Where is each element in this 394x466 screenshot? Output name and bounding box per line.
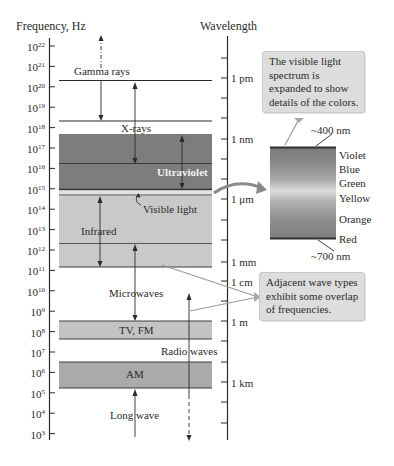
frequency-axis	[49, 38, 55, 440]
wavelength-axis	[221, 36, 228, 440]
spectrum-400nm-label: ~400 nm	[311, 124, 350, 136]
visible-light-band	[59, 191, 212, 195]
freq-tick-6: 106	[7, 365, 45, 379]
freq-tick-19: 1019	[7, 100, 45, 114]
microwaves-label: Microwaves	[109, 287, 163, 299]
infrared-label: Infrared	[81, 225, 116, 237]
overlap-pointers	[162, 265, 258, 311]
color-label-green: Green	[339, 177, 366, 189]
callout-line: The visible light	[269, 55, 358, 69]
wavelength-label-um: 1 μm	[231, 193, 254, 205]
freq-tick-4: 104	[7, 406, 45, 420]
callout-line: details of the colors.	[269, 96, 358, 110]
visible-light-label: Visible light	[143, 203, 197, 215]
freq-tick-12: 1012	[7, 243, 45, 257]
callout-line: of frequencies.	[266, 303, 358, 317]
freq-tick-11: 1011	[7, 263, 45, 277]
wavelength-label-km: 1 km	[231, 377, 253, 389]
freq-tick-16: 1016	[7, 161, 45, 175]
freq-tick-18: 1018	[7, 121, 45, 135]
tv-fm-label: TV, FM	[119, 324, 154, 336]
callout-line: spectrum is	[269, 69, 358, 83]
color-label-violet: Violet	[339, 149, 366, 161]
callout-line: exhibit some overlap	[266, 290, 358, 304]
color-label-red: Red	[339, 233, 357, 245]
ultraviolet-label: Ultraviolet	[157, 166, 208, 178]
visible-spectrum-box	[270, 147, 336, 239]
wavelength-label-nm: 1 nm	[231, 133, 253, 145]
am-label: AM	[126, 368, 144, 380]
overlap-callout: Adjacent wave types exhibit some overlap…	[259, 272, 365, 321]
freq-tick-7: 107	[7, 345, 45, 359]
freq-tick-21: 1021	[7, 59, 45, 73]
radio-waves-label: Radio waves	[161, 345, 218, 357]
freq-tick-8: 108	[7, 325, 45, 339]
freq-tick-20: 1020	[7, 80, 45, 94]
freq-tick-3: 103	[7, 427, 45, 441]
color-label-blue: Blue	[339, 163, 360, 175]
gamma-rays-label: Gamma rays	[74, 65, 130, 77]
wavelength-axis-title: Wavelength	[200, 20, 257, 32]
freq-tick-15: 1015	[7, 182, 45, 196]
callout-line: expanded to show	[269, 82, 358, 96]
expand-arrow	[214, 184, 262, 193]
wavelength-label-cm: 1 cm	[231, 276, 253, 288]
color-label-orange: Orange	[339, 213, 371, 225]
freq-tick-22: 1022	[7, 39, 45, 53]
freq-tick-10: 1010	[7, 284, 45, 298]
wavelength-label-pm: 1 pm	[231, 72, 253, 84]
wavelength-label-mm: 1 mm	[231, 256, 256, 268]
color-label-yellow: Yellow	[339, 192, 370, 204]
frequency-axis-title: Frequency, Hz	[16, 20, 86, 32]
freq-tick-5: 105	[7, 386, 45, 400]
freq-tick-17: 1017	[7, 141, 45, 155]
spectrum-700nm-label: ~700 nm	[311, 250, 350, 262]
callout-line: Adjacent wave types	[266, 276, 358, 290]
x-rays-label: X-rays	[121, 122, 151, 134]
freq-tick-14: 1014	[7, 202, 45, 216]
wavelength-label-m: 1 m	[231, 316, 248, 328]
freq-tick-13: 1013	[7, 223, 45, 237]
visible-spectrum-callout: The visible light spectrum is expanded t…	[262, 51, 365, 113]
freq-tick-9: 109	[7, 304, 45, 318]
long-wave-label: Long wave	[110, 409, 159, 421]
